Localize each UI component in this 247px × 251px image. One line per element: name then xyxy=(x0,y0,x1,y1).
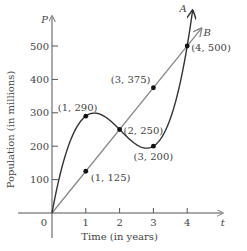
origin-label: 0 xyxy=(41,217,47,228)
x-tick-label: 2 xyxy=(116,217,122,228)
y-ticks: 100200300400500 xyxy=(30,41,58,186)
y-axis-label: Population (in millions) xyxy=(5,71,16,189)
x-tick-label: 1 xyxy=(83,217,89,228)
point-annotation: (1, 125) xyxy=(91,172,131,183)
data-point xyxy=(151,144,156,149)
point-annotation: (3, 375) xyxy=(111,74,151,85)
data-annotations: (1, 290)(1, 125)(2, 250)(3, 375)(3, 200)… xyxy=(58,42,231,183)
data-point xyxy=(185,44,190,49)
y-axis-name: P xyxy=(40,14,48,25)
point-annotation: (4, 500) xyxy=(191,42,231,53)
data-point xyxy=(83,169,88,174)
x-tick-label: 3 xyxy=(150,217,156,228)
y-tick-label: 300 xyxy=(30,107,49,118)
series-b-label: B xyxy=(202,27,210,38)
x-ticks: 1234 xyxy=(83,208,191,228)
y-tick-label: 400 xyxy=(30,74,49,85)
x-axis-name: t xyxy=(221,217,226,228)
y-tick-label: 100 xyxy=(30,174,49,185)
data-point xyxy=(117,127,122,132)
point-annotation: (3, 200) xyxy=(134,151,174,162)
point-annotation: (2, 250) xyxy=(124,125,164,136)
x-tick-label: 4 xyxy=(184,217,190,228)
y-tick-label: 200 xyxy=(30,141,49,152)
population-chart: 1234 100200300400500 0 t P Time (in year… xyxy=(0,0,247,251)
series-b-line xyxy=(52,28,201,213)
data-point xyxy=(151,85,156,90)
y-tick-label: 500 xyxy=(30,41,49,52)
x-axis-label: Time (in years) xyxy=(81,231,158,242)
data-point xyxy=(83,114,88,119)
series-a-label: A xyxy=(179,3,187,14)
point-annotation: (1, 290) xyxy=(58,102,98,113)
